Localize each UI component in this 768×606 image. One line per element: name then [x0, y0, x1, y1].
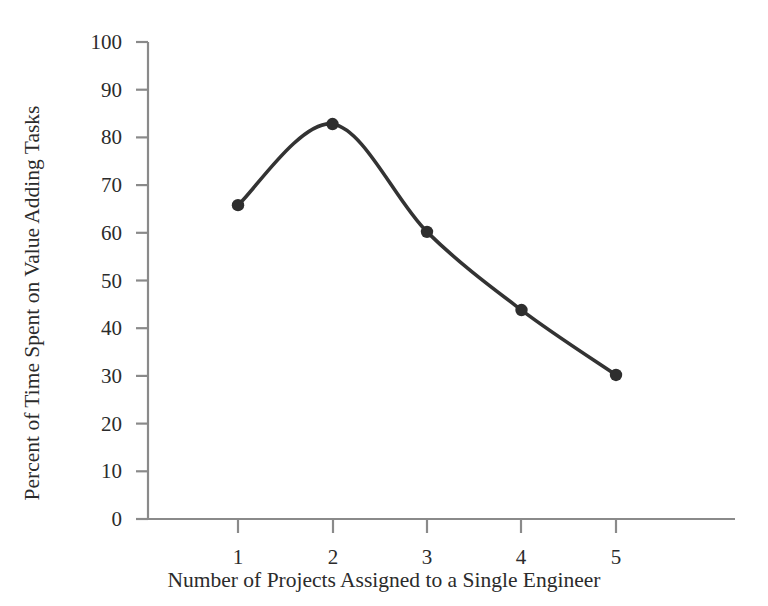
y-axis-label-text: Percent of Time Spent on Value Adding Ta… [20, 0, 45, 606]
y-tick-label-70: 70 [60, 175, 122, 196]
y-tick-label-10: 10 [60, 461, 122, 482]
data-series-line [238, 124, 616, 375]
x-axis-ticks [238, 519, 616, 533]
y-tick-label-60: 60 [60, 222, 122, 243]
y-tick-label-0: 0 [60, 509, 122, 530]
data-point-1 [232, 199, 244, 211]
y-tick-label-20: 20 [60, 413, 122, 434]
x-axis-label: Number of Projects Assigned to a Single … [0, 568, 768, 593]
y-tick-label-40: 40 [60, 318, 122, 339]
x-tick-label-5: 5 [611, 547, 622, 568]
x-tick-label-1: 1 [233, 547, 244, 568]
data-point-4 [515, 304, 527, 316]
x-tick-label-2: 2 [328, 547, 339, 568]
y-tick-label-80: 80 [60, 127, 122, 148]
y-tick-label-90: 90 [60, 79, 122, 100]
data-point-5 [610, 369, 622, 381]
y-tick-label-100: 100 [60, 32, 122, 53]
x-tick-label-3: 3 [422, 547, 433, 568]
y-tick-label-30: 30 [60, 365, 122, 386]
chart-figure: 100 90 80 70 60 50 40 30 20 10 0 1 2 3 4… [0, 0, 768, 606]
axis-lines [148, 42, 735, 519]
data-point-2 [326, 118, 338, 130]
data-point-3 [421, 226, 433, 238]
y-tick-label-50: 50 [60, 270, 122, 291]
y-axis-ticks [136, 42, 148, 519]
y-axis-label: Percent of Time Spent on Value Adding Ta… [24, 0, 64, 606]
x-tick-label-4: 4 [516, 547, 527, 568]
